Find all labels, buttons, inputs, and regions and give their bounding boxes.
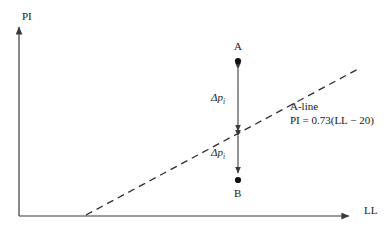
x-axis-label: LL xyxy=(364,205,377,216)
plasticity-chart-figure: PI LL A B Δpi Δpi A-line PI = 0.73(LL − … xyxy=(0,0,384,235)
y-axis-label: PI xyxy=(22,11,32,22)
a-line-name-label: A-line xyxy=(290,101,318,112)
a-line xyxy=(86,68,360,215)
a-line-equation-label: PI = 0.73(LL − 20) xyxy=(290,115,374,126)
data-point-a xyxy=(235,58,241,64)
data-point-b xyxy=(235,177,241,183)
delta-lower-subscript: i xyxy=(223,152,225,161)
point-b-label: B xyxy=(234,188,241,199)
delta-lower-symbol: Δp xyxy=(211,146,223,158)
delta-upper-subscript: i xyxy=(223,97,225,106)
point-a-label: A xyxy=(234,41,242,52)
delta-upper-symbol: Δp xyxy=(211,91,223,103)
delta-lower-label: Δpi xyxy=(211,147,225,161)
delta-upper-label: Δpi xyxy=(211,92,225,106)
